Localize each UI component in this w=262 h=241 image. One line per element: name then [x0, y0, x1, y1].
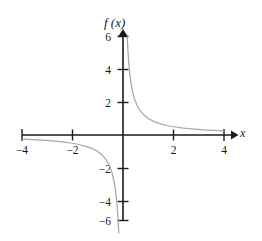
- x-tick-label-2: 2: [171, 144, 177, 156]
- function-graph-svg: f (x) x −4 −2 2 4 6 4 2 −2 −4 −6: [0, 0, 262, 241]
- y-axis-function-label: f (x): [104, 15, 125, 30]
- x-tick-label-4: 4: [221, 144, 227, 156]
- y-tick-label--6: −6: [99, 215, 111, 227]
- y-axis-arrowhead: [119, 29, 128, 36]
- x-tick-label--2: −2: [66, 144, 78, 156]
- y-tick-label--4: −4: [99, 196, 111, 208]
- y-tick-label-6: 6: [105, 31, 111, 43]
- x-tick-label--4: −4: [16, 144, 28, 156]
- y-tick-label-2: 2: [105, 97, 111, 109]
- y-tick-label-4: 4: [105, 64, 111, 76]
- x-axis-arrowhead: [231, 131, 239, 140]
- x-axis-label: x: [239, 126, 246, 140]
- graph-figure: f (x) x −4 −2 2 4 6 4 2 −2 −4 −6: [0, 0, 262, 241]
- curve-branch-right: [127, 37, 224, 131]
